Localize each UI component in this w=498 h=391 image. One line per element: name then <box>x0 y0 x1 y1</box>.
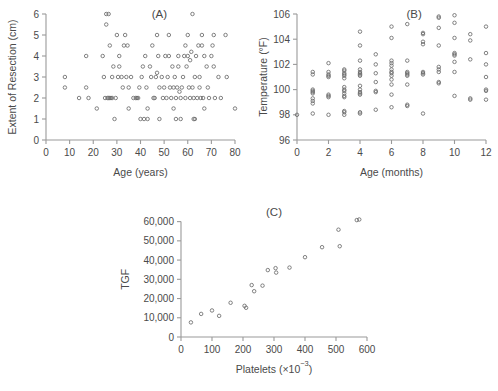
data-point <box>95 107 99 111</box>
data-point <box>87 96 91 100</box>
data-point <box>338 244 342 248</box>
data-point <box>274 271 278 275</box>
panel-b-plot: 9698100102104106024681012Age (months)Tem… <box>245 0 498 196</box>
data-point <box>179 96 183 100</box>
data-point <box>167 54 171 58</box>
panel-b-y-tick-label: 96 <box>279 135 291 146</box>
panel-a-y-tick-label: 0 <box>33 135 39 146</box>
panel-a-y-axis-title: Extent of Resection (cm) <box>6 20 18 135</box>
data-point <box>194 54 198 58</box>
data-point <box>186 54 190 58</box>
data-point <box>311 112 315 116</box>
panel-b-x-tick-label: 12 <box>480 147 492 158</box>
data-point <box>199 312 203 316</box>
data-point <box>390 78 394 82</box>
data-point <box>145 86 149 90</box>
data-point <box>390 105 394 109</box>
data-point <box>210 54 214 58</box>
data-point <box>203 107 207 111</box>
data-point <box>138 86 142 90</box>
data-point <box>164 54 168 58</box>
panel-b-y-tick-label: 102 <box>273 59 290 70</box>
panel-b-y-tick-label: 98 <box>279 109 291 120</box>
panel-a-y-tick-label: 5 <box>33 30 39 41</box>
data-point <box>484 75 488 79</box>
data-point <box>233 107 237 111</box>
panel-c-x-tick-label: 600 <box>359 344 376 355</box>
data-point <box>148 65 152 69</box>
data-point <box>191 12 195 16</box>
data-point <box>421 42 425 46</box>
data-point <box>205 65 209 69</box>
data-point <box>390 74 394 78</box>
panel-c-x-tick-label: 300 <box>266 344 283 355</box>
data-point <box>174 117 178 121</box>
data-point <box>125 75 129 79</box>
panel-a-x-axis-title: Age (years) <box>113 166 167 178</box>
data-point <box>266 268 270 272</box>
data-point <box>453 36 457 40</box>
data-point <box>84 86 88 90</box>
data-point <box>146 117 150 121</box>
panel-a-x-tick-label: 60 <box>182 147 194 158</box>
panel-b-x-tick-label: 4 <box>357 147 363 158</box>
data-point <box>114 96 118 100</box>
data-point <box>172 86 176 90</box>
data-point <box>168 86 172 90</box>
data-point <box>453 14 457 18</box>
data-point <box>374 71 378 75</box>
data-point <box>117 65 121 69</box>
panel-c-x-tick-label: 100 <box>204 344 221 355</box>
panel-c-y-tick-label: 10,000 <box>143 312 174 323</box>
data-point <box>484 98 488 102</box>
data-point <box>180 86 184 90</box>
data-point <box>201 96 205 100</box>
data-point <box>154 75 158 79</box>
data-point <box>252 289 256 293</box>
panel-a-y-tick-label: 6 <box>33 9 39 20</box>
data-point <box>374 80 378 84</box>
data-point <box>151 44 155 48</box>
data-point <box>358 84 362 88</box>
data-point <box>206 86 210 90</box>
data-point <box>406 83 410 87</box>
data-point <box>171 65 175 69</box>
data-point <box>437 26 441 30</box>
data-point <box>169 96 173 100</box>
data-point <box>117 54 121 58</box>
data-point <box>343 113 347 117</box>
data-point <box>141 65 145 69</box>
data-point <box>198 86 202 90</box>
data-point <box>101 54 105 58</box>
data-point <box>207 96 211 100</box>
data-point <box>174 96 178 100</box>
panel-a-x-tick-label: 70 <box>206 147 218 158</box>
panel-a-x-tick-label: 20 <box>88 147 100 158</box>
data-point <box>453 70 457 74</box>
data-point <box>337 228 341 232</box>
data-point <box>390 83 394 87</box>
panel-a-points <box>63 12 237 121</box>
panel-c-y-tick-label: 60,000 <box>143 216 174 227</box>
data-point <box>390 93 394 97</box>
data-point <box>303 255 307 259</box>
data-point <box>390 36 394 40</box>
data-point <box>358 59 362 63</box>
panel-a-x-tick-label: 0 <box>43 147 49 158</box>
data-point <box>63 86 67 90</box>
data-point <box>203 54 207 58</box>
panel-b-x-tick-label: 8 <box>420 147 426 158</box>
data-point <box>120 75 124 79</box>
data-point <box>390 64 394 68</box>
data-point <box>185 65 189 69</box>
data-point <box>421 112 425 116</box>
data-point <box>212 65 216 69</box>
data-point <box>200 33 204 37</box>
data-point <box>113 117 117 121</box>
data-point <box>469 32 473 36</box>
panel-c-y-tick-label: 40,000 <box>143 255 174 266</box>
data-point <box>190 50 194 54</box>
data-point <box>406 22 410 26</box>
data-point <box>261 284 265 288</box>
data-point <box>146 107 150 111</box>
